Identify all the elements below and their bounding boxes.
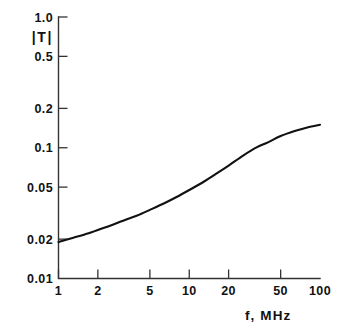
y-tick-label-0-5: 0.5 — [34, 50, 53, 64]
x-tick-label-2: 2 — [94, 284, 101, 298]
x-tick-label-50: 50 — [273, 284, 288, 298]
y-tick-label-0-2: 0.2 — [34, 102, 53, 116]
figure-canvas: 1.0 0.5 0.2 0.1 0.05 0.02 0.01 |T| 1 2 5… — [0, 0, 354, 331]
y-tick-marks — [59, 17, 68, 239]
axis-lines — [59, 17, 321, 279]
y-tick-label-0-01: 0.01 — [27, 272, 53, 286]
x-tick-label-100: 100 — [309, 284, 331, 298]
y-tick-label-1-0: 1.0 — [34, 11, 53, 25]
x-tick-label-20: 20 — [221, 284, 236, 298]
y-axis-title: |T| — [32, 29, 53, 45]
log-log-plot: 1.0 0.5 0.2 0.1 0.05 0.02 0.01 |T| 1 2 5… — [0, 0, 354, 331]
transfer-magnitude-curve — [59, 125, 321, 242]
y-tick-label-0-05: 0.05 — [27, 181, 53, 195]
y-tick-label-0-1: 0.1 — [34, 141, 53, 155]
x-tick-marks — [59, 270, 281, 279]
x-tick-label-10: 10 — [182, 284, 197, 298]
y-tick-label-0-02: 0.02 — [27, 233, 53, 247]
x-tick-label-5: 5 — [146, 284, 153, 298]
x-axis-title: f, MHz — [245, 308, 291, 323]
x-tick-label-1: 1 — [55, 284, 62, 298]
